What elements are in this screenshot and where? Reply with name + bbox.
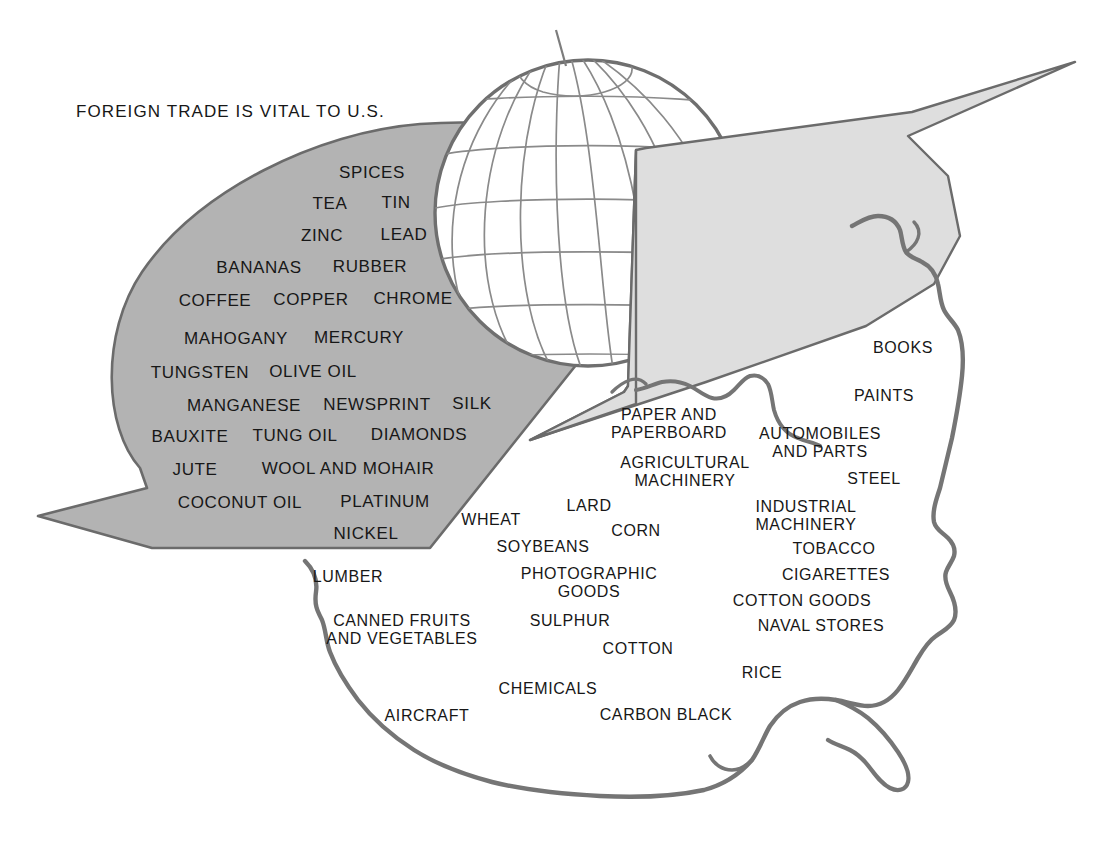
import-commodity-label: RUBBER — [333, 258, 407, 276]
export-commodity-label: CORN — [611, 522, 661, 539]
import-commodity-label: SPICES — [339, 164, 405, 182]
import-commodity-label: TUNG OIL — [252, 427, 337, 445]
infographic-artwork — [0, 0, 1110, 850]
import-commodity-label: LEAD — [381, 226, 428, 244]
import-commodity-label: TUNGSTEN — [151, 364, 249, 382]
import-commodity-label: TIN — [381, 194, 410, 212]
export-commodity-label: AUTOMOBILESAND PARTS — [759, 425, 881, 461]
export-commodity-label: COTTON — [603, 640, 674, 657]
export-commodity-label: LARD — [566, 497, 611, 514]
export-commodity-label: PAPER ANDPAPERBOARD — [611, 406, 727, 442]
export-commodity-label: TOBACCO — [792, 540, 875, 557]
import-commodity-label: DIAMONDS — [371, 426, 467, 444]
import-commodity-label: SILK — [452, 395, 491, 413]
import-commodity-label: BAUXITE — [152, 428, 229, 446]
export-commodity-label: CIGARETTES — [782, 566, 890, 583]
export-commodity-label: NAVAL STORES — [758, 617, 885, 634]
import-commodity-label: COFFEE — [179, 292, 252, 310]
export-commodity-label: PHOTOGRAPHICGOODS — [521, 565, 658, 601]
export-commodity-label: COTTON GOODS — [733, 592, 871, 609]
import-commodity-label: OLIVE OIL — [269, 363, 357, 381]
globe-axis — [556, 30, 566, 66]
export-commodity-label: WHEAT — [461, 511, 521, 528]
import-commodity-label: COPPER — [273, 291, 348, 309]
export-commodity-label: PAINTS — [854, 387, 914, 404]
import-commodity-label: PLATINUM — [340, 493, 430, 511]
import-commodity-label: NEWSPRINT — [323, 396, 430, 414]
export-commodity-label: BOOKS — [873, 339, 933, 356]
import-commodity-label: TEA — [313, 195, 348, 213]
export-commodity-label: RICE — [742, 664, 783, 681]
import-commodity-label: WOOL AND MOHAIR — [262, 460, 435, 478]
import-commodity-label: NICKEL — [333, 525, 398, 543]
export-commodity-label: LUMBER — [313, 568, 383, 585]
foreign-trade-infographic: FOREIGN TRADE IS VITAL TO U.S. SPICESTEA… — [0, 0, 1110, 850]
export-commodity-label: INDUSTRIALMACHINERY — [755, 498, 856, 534]
export-commodity-label: SOYBEANS — [497, 538, 590, 555]
export-commodity-label: CHEMICALS — [499, 680, 598, 697]
import-commodity-label: BANANAS — [216, 259, 301, 277]
import-commodity-label: CHROME — [373, 290, 452, 308]
import-commodity-label: MANGANESE — [187, 397, 301, 415]
import-commodity-label: ZINC — [301, 227, 343, 245]
import-commodity-label: JUTE — [173, 461, 218, 479]
export-commodity-label: CANNED FRUITSAND VEGETABLES — [326, 612, 477, 648]
import-commodity-label: MERCURY — [314, 329, 404, 347]
page-title: FOREIGN TRADE IS VITAL TO U.S. — [76, 102, 385, 122]
export-commodity-label: AIRCRAFT — [385, 707, 470, 724]
import-commodity-label: COCONUT OIL — [178, 494, 302, 512]
import-commodity-label: MAHOGANY — [184, 330, 288, 348]
export-commodity-label: STEEL — [847, 470, 901, 487]
export-commodity-label: SULPHUR — [530, 612, 611, 629]
export-commodity-label: AGRICULTURALMACHINERY — [620, 454, 750, 490]
export-commodity-label: CARBON BLACK — [600, 706, 733, 723]
